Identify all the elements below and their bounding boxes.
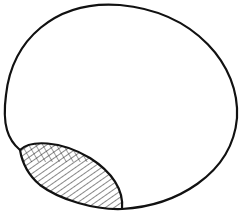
hatched-region (0, 130, 140, 211)
diagram-canvas (0, 0, 242, 211)
